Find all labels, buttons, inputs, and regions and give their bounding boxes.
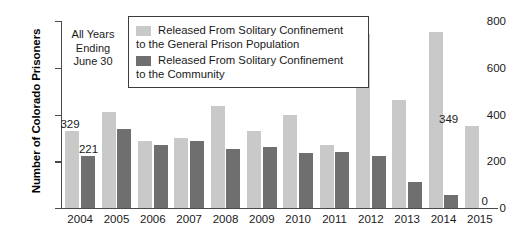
legend-label: Released From Solitary Confinementto the… [158, 23, 343, 51]
x-axis-label: 2006 [133, 213, 173, 225]
legend-swatch-dark [136, 56, 151, 66]
bar-value-label: 0 [482, 195, 488, 207]
bar-dark [372, 156, 386, 208]
bar-light [211, 106, 225, 208]
y-axis-tick [55, 68, 62, 69]
x-axis-label: 2013 [387, 213, 427, 225]
bar-chart: Number of Colorado Prisoners 02004006008… [0, 0, 506, 249]
y-axis-tick [55, 161, 62, 162]
x-axis-label: 2009 [242, 213, 282, 225]
chart-annotation-line: June 30 [62, 55, 124, 69]
legend-label-line1: Released From Solitary Confinement [158, 54, 343, 66]
y-axis-tick [55, 208, 62, 209]
chart-annotation: All YearsEndingJune 30 [62, 28, 124, 69]
legend-entry: Released From Solitary Confinementto the… [136, 23, 362, 51]
legend-label: Released From Solitary Confinementto the… [158, 53, 343, 81]
bar-value-label: 221 [79, 143, 98, 155]
bar-light [138, 141, 152, 208]
bar-group [392, 21, 422, 208]
bar-dark [408, 182, 422, 208]
bar-dark [299, 153, 313, 208]
bar-dark [226, 149, 240, 208]
x-axis-label: 2005 [97, 213, 137, 225]
chart-annotation-line: Ending [62, 42, 124, 56]
legend-entry: Released From Solitary Confinementto the… [136, 53, 362, 81]
bar-light [392, 100, 406, 208]
bar-light [247, 131, 261, 208]
x-axis-label: 2008 [206, 213, 246, 225]
x-axis-label: 2010 [278, 213, 318, 225]
x-axis-label: 2004 [60, 213, 100, 225]
bar-light [174, 138, 188, 208]
bar-dark [190, 141, 204, 208]
x-axis-label: 2012 [351, 213, 391, 225]
x-axis-label: 2015 [460, 213, 500, 225]
chart-annotation-line: All Years [62, 28, 124, 42]
bar-dark [335, 152, 349, 208]
x-axis-label: 2007 [169, 213, 209, 225]
bar-light [465, 126, 479, 208]
bar-light [65, 131, 79, 208]
legend-label-line2: to the General Prison Population [136, 37, 343, 51]
bar-value-label: 349 [439, 113, 458, 125]
legend-label-line2: to the Community [136, 67, 343, 81]
bar-light [102, 112, 116, 208]
bar-light [283, 115, 297, 209]
bar-group [465, 21, 495, 208]
y-axis-title: Number of Colorado Prisoners [30, 11, 42, 211]
bar-dark [117, 129, 131, 208]
bar-dark [444, 195, 458, 208]
legend-label-line1: Released From Solitary Confinement [158, 24, 343, 36]
y-axis-tick [55, 115, 62, 116]
bar-dark [154, 145, 168, 208]
bar-light [320, 145, 334, 208]
y-axis-tick [55, 21, 62, 22]
legend-swatch-light [136, 26, 151, 36]
bar-value-label: 329 [60, 118, 79, 130]
bar-dark [81, 156, 95, 208]
chart-legend: Released From Solitary Confinementto the… [128, 16, 369, 88]
x-axis-label: 2014 [424, 213, 464, 225]
bar-dark [263, 147, 277, 208]
x-axis-label: 2011 [315, 213, 355, 225]
